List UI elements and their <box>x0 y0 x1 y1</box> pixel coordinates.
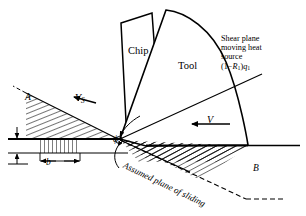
shear-velocity-subscript: S <box>81 97 85 105</box>
region-b-label: B <box>253 163 259 174</box>
depth-of-cut-hatch <box>40 140 80 153</box>
chip-label: Chip <box>128 45 148 57</box>
heat-source-annotation: Shear plane moving heat source (1−R1)q1 <box>221 34 262 72</box>
shear-angle-label: ϕ <box>113 133 118 144</box>
depth-dimension-arrows <box>8 127 28 164</box>
formula-q-subscript: 1 <box>247 65 250 71</box>
annotation-line-2: moving heat <box>221 43 262 52</box>
annotation-line-3: source <box>221 52 262 61</box>
annotation-formula: (1−R1)q1 <box>221 62 262 72</box>
figure-canvas: Chip Tool A B VS V b ϕ Shear plane movin… <box>0 0 306 216</box>
shear-velocity-label: VS <box>75 92 85 105</box>
formula-open: (1− <box>221 62 232 71</box>
shear-zone-triangle <box>26 93 118 139</box>
width-dimension-label: b <box>46 157 51 168</box>
cutting-velocity-label: V <box>207 114 213 125</box>
tool-label: Tool <box>178 60 197 72</box>
region-a-label: A <box>25 92 31 103</box>
annotation-line-1: Shear plane <box>221 34 262 43</box>
